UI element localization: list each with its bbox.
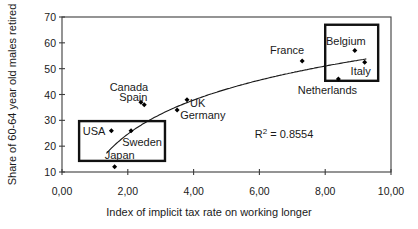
country-label-germany: Germany [180,109,226,121]
country-label-uk: UK [190,97,206,109]
x-axis-tick-label: 4,00 [183,185,204,197]
y-axis-tick-label: 60 [44,37,56,49]
y-axis-tick-label: 40 [44,89,56,101]
data-point-japan [112,164,117,169]
x-axis-tick-label: 2,00 [118,185,139,197]
chart-canvas: 706050403020100,002,004,006,008,0010,00I… [0,0,418,229]
country-label-japan: Japan [105,149,135,161]
y-axis-tick-label: 30 [44,114,56,126]
country-label-netherlands: Netherlands [298,84,358,96]
y-axis-tick-label: 10 [44,166,56,178]
x-axis-tick-label: 10,00 [378,185,404,197]
x-axis-title: Index of implicit tax rate on working lo… [106,206,312,218]
country-label-italy: Italy [351,65,372,77]
country-label-usa: USA [83,125,106,137]
retirement-tax-scatter-figure: 706050403020100,002,004,006,008,0010,00I… [0,0,418,229]
x-axis-tick-label: 0,00 [52,185,73,197]
y-axis-tick-label: 20 [44,140,56,152]
country-label-spain: Spain [119,91,147,103]
data-point-belgium [352,48,357,53]
y-axis-tick-label: 70 [44,11,56,23]
y-axis-title: Share of 60-64 year old males retired [6,4,18,186]
country-label-sweden: Sweden [122,136,162,148]
x-axis-tick-label: 6,00 [249,185,270,197]
x-axis-tick-label: 8,00 [315,185,336,197]
data-point-france [300,58,305,63]
data-point-italy [362,60,367,65]
country-label-france: France [270,44,304,56]
data-point-usa [109,128,114,133]
data-point-germany [175,108,180,113]
r-squared-annotation: R2 = 0.8554 [255,127,314,140]
y-axis-tick-label: 50 [44,63,56,75]
country-label-belgium: Belgium [326,35,366,47]
